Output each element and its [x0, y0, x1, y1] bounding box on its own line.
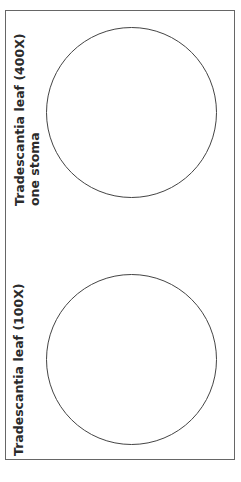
drawing-circle-100x	[46, 274, 217, 445]
drawing-circle-400x	[46, 27, 217, 198]
panel-title-400x: Tradescantia leaf (400X)	[13, 33, 26, 206]
panel-title-100x: Tradescantia leaf (100X)	[12, 283, 25, 456]
panel-subtitle-400x: one stoma	[28, 132, 41, 206]
